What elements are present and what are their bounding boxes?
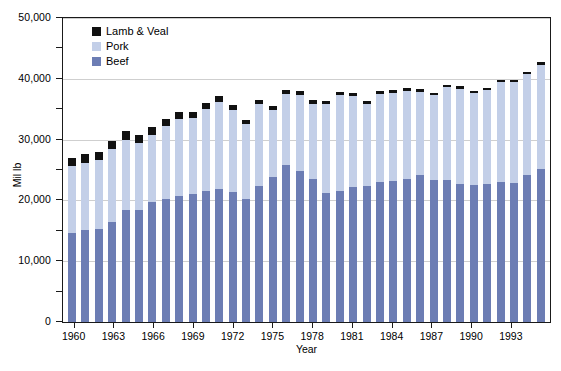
bar-segment-pork — [537, 65, 545, 169]
bar-segment-beef — [510, 183, 518, 322]
bar-1965 — [135, 135, 143, 322]
bar-1964 — [122, 131, 130, 322]
bar-segment-pork — [403, 91, 411, 179]
bar-1992 — [497, 80, 505, 322]
bar-segment-pork — [215, 102, 223, 190]
x-axis-tick — [74, 323, 75, 328]
bar-segment-beef — [336, 191, 344, 322]
bar-1988 — [443, 85, 451, 322]
x-axis-tick-label: 1972 — [221, 330, 244, 342]
bar-1985 — [403, 88, 411, 322]
x-axis-tick-label: 1987 — [420, 330, 443, 342]
bar-segment-pork — [95, 160, 103, 229]
bar-segment-beef — [269, 177, 277, 322]
x-axis-tick — [233, 323, 234, 328]
x-axis-tick — [272, 323, 273, 328]
bar-segment-beef — [363, 186, 371, 322]
bar-1979 — [322, 101, 330, 322]
bar-1983 — [376, 91, 384, 322]
bar-segment-pork — [68, 166, 76, 232]
bar-1973 — [242, 120, 250, 322]
bar-segment-lamb-veal — [148, 127, 156, 134]
x-axis-tick — [193, 323, 194, 328]
bar-1966 — [148, 127, 156, 322]
x-axis-tick-label: 1984 — [380, 330, 403, 342]
x-axis-tick-label: 1960 — [62, 330, 85, 342]
x-axis-tick — [511, 323, 512, 328]
bar-segment-pork — [497, 82, 505, 182]
bar-segment-beef — [175, 196, 183, 322]
legend: Lamb & VealPorkBeef — [92, 24, 168, 68]
bar-segment-beef — [148, 202, 156, 322]
bar-segment-pork — [189, 118, 197, 195]
bar-segment-beef — [456, 184, 464, 322]
bar-segment-beef — [202, 191, 210, 322]
bar-1984 — [389, 90, 397, 322]
bar-segment-beef — [215, 189, 223, 322]
bar-segment-pork — [242, 124, 250, 199]
bar-1962 — [95, 152, 103, 322]
bar-1963 — [108, 141, 116, 322]
bar-segment-pork — [229, 110, 237, 191]
bar-1993 — [510, 80, 518, 322]
bar-segment-beef — [483, 184, 491, 322]
bar-segment-beef — [296, 171, 304, 322]
bar-segment-beef — [430, 180, 438, 322]
bar-segment-beef — [162, 199, 170, 322]
bar-1961 — [81, 154, 89, 322]
legend-swatch-icon — [92, 57, 101, 66]
bar-1994 — [523, 72, 531, 322]
y-axis-title: Mil lb — [11, 140, 23, 210]
bar-1991 — [483, 88, 491, 322]
bar-segment-pork — [296, 95, 304, 171]
bar-segment-lamb-veal — [175, 112, 183, 119]
bar-segment-pork — [430, 95, 438, 180]
bar-1967 — [162, 119, 170, 322]
bar-segment-lamb-veal — [108, 141, 116, 149]
y-axis-tick-label: 30,000 — [18, 133, 51, 145]
bar-1976 — [282, 90, 290, 322]
x-axis-tick-label: 1993 — [499, 330, 522, 342]
x-axis-tick-label: 1978 — [300, 330, 323, 342]
x-axis-tick — [431, 323, 432, 328]
y-axis-tick-label: 20,000 — [18, 193, 51, 205]
bar-segment-pork — [416, 92, 424, 176]
legend-item: Pork — [92, 39, 168, 53]
bar-1968 — [175, 112, 183, 322]
x-axis-tick-label: 1963 — [102, 330, 125, 342]
y-axis: 010,00020,00030,00040,00050,000 — [0, 0, 58, 371]
bar-segment-pork — [510, 82, 518, 182]
bar-segment-beef — [523, 175, 531, 322]
bar-segment-pork — [175, 119, 183, 196]
bar-1982 — [363, 101, 371, 322]
bar-segment-pork — [135, 143, 143, 210]
bar-segment-beef — [443, 180, 451, 322]
bar-segment-pork — [483, 90, 491, 184]
x-axis-tick — [471, 323, 472, 328]
bar-1989 — [456, 86, 464, 322]
bar-segment-lamb-veal — [135, 135, 143, 143]
bar-segment-beef — [376, 182, 384, 322]
bar-segment-beef — [497, 182, 505, 322]
bar-segment-pork — [309, 104, 317, 179]
bar-segment-pork — [456, 89, 464, 184]
legend-label: Lamb & Veal — [106, 26, 168, 37]
bar-segment-pork — [523, 74, 531, 176]
x-axis-tick-label: 1966 — [141, 330, 164, 342]
bar-segment-beef — [81, 230, 89, 322]
bar-1990 — [470, 91, 478, 322]
x-axis-tick — [392, 323, 393, 328]
x-axis-tick — [312, 323, 313, 328]
bar-segment-pork — [363, 104, 371, 187]
bar-1978 — [309, 100, 317, 322]
bar-segment-beef — [309, 179, 317, 322]
bar-segment-pork — [255, 104, 263, 185]
bar-1986 — [416, 89, 424, 322]
bar-segment-beef — [416, 175, 424, 322]
bar-segment-pork — [162, 126, 170, 200]
bar-segment-beef — [189, 194, 197, 322]
bar-segment-beef — [122, 210, 130, 322]
bar-segment-lamb-veal — [122, 131, 130, 140]
legend-item: Lamb & Veal — [92, 24, 168, 38]
bar-1981 — [349, 93, 357, 322]
